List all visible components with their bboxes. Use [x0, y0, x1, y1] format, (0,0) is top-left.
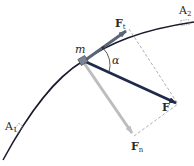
trajectory-curve [3, 22, 194, 160]
label-force-tangential: Ft [115, 17, 126, 31]
label-angle: α [112, 54, 120, 67]
normal-force-arrow [84, 63, 132, 133]
label-a1: A1 [4, 120, 17, 134]
label-force-normal: Fn [131, 140, 144, 154]
dashed-line-fn-to-f [134, 104, 178, 136]
angle-arc [103, 48, 110, 72]
label-mass: m [75, 43, 85, 56]
force-diagram: A1 A2 m α F Ft Fn [0, 0, 194, 166]
label-force: F [162, 101, 170, 114]
label-a2: A2 [178, 4, 191, 18]
